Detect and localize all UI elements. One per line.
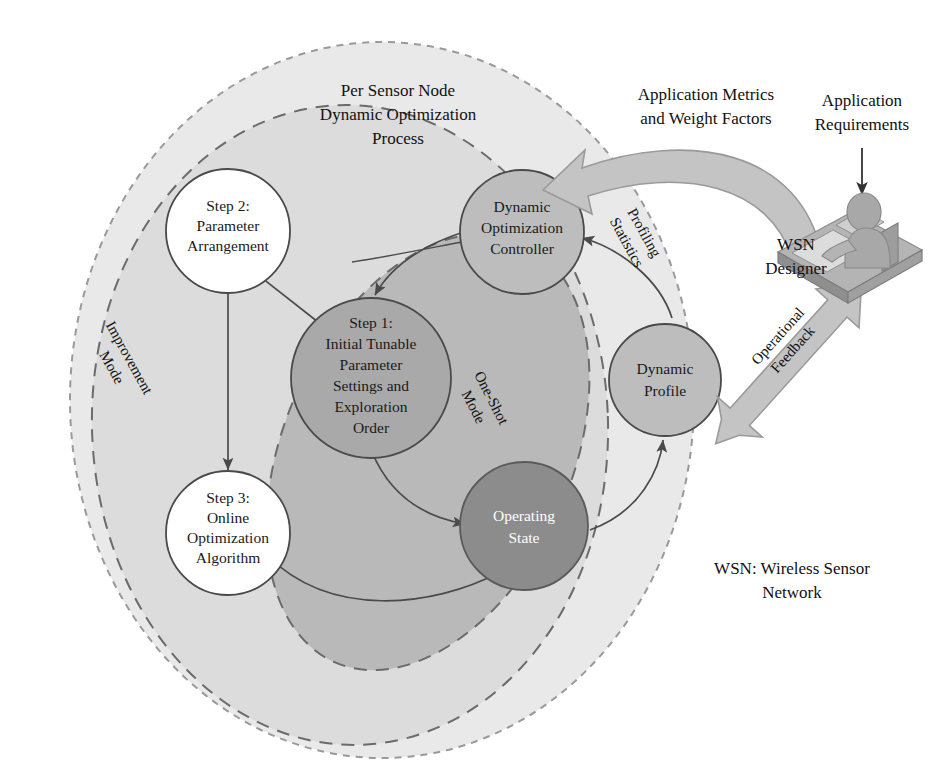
step2-line-2: Parameter (197, 217, 261, 234)
profile-circle[interactable] (609, 324, 721, 436)
node-step3[interactable]: Step 3: Online Optimization Algorithm (166, 471, 290, 595)
label-application-metrics: Application Metrics and Weight Factors (638, 85, 774, 128)
profile-line-2: Profile (644, 382, 686, 399)
node-step1[interactable]: Step 1: Initial Tunable Parameter Settin… (291, 298, 451, 458)
step1-line-2: Initial Tunable (326, 335, 417, 352)
operating-state-circle[interactable] (460, 462, 588, 590)
node-dynamic-profile[interactable]: Dynamic Profile (609, 324, 721, 436)
app-requirements-line-1: Application (822, 91, 903, 110)
step1-line-5: Exploration (334, 398, 407, 415)
step1-line-1: Step 1: (349, 314, 393, 331)
step3-line-2: Online (207, 509, 249, 526)
step3-line-3: Optimization (187, 529, 269, 546)
dynamic-optimization-process-diagram: Per Sensor Node Dynamic Optimization Pro… (0, 0, 933, 775)
title-line-3: Process (372, 129, 424, 148)
profile-line-1: Dynamic (637, 360, 694, 377)
step1-line-6: Order (353, 419, 390, 436)
step2-line-1: Step 2: (206, 197, 250, 214)
step3-line-1: Step 3: (206, 489, 250, 506)
label-application-requirements: Application Requirements (815, 91, 909, 134)
legend-line-2: Network (762, 583, 822, 602)
controller-line-3: Controller (490, 240, 555, 257)
node-step2[interactable]: Step 2: Parameter Arrangement (166, 169, 290, 293)
diagram-canvas: Per Sensor Node Dynamic Optimization Pro… (0, 0, 933, 775)
title-line-1: Per Sensor Node (341, 81, 455, 100)
app-metrics-line-1: Application Metrics (638, 85, 774, 104)
title-line-2: Dynamic Optimization (320, 105, 477, 124)
wsn-designer-line-2: Designer (765, 259, 827, 278)
step3-line-4: Algorithm (196, 549, 261, 566)
person-head-icon (847, 193, 881, 231)
app-metrics-line-2: and Weight Factors (640, 109, 771, 128)
node-operating-state[interactable]: Operating State (460, 462, 588, 590)
operating-state-line-2: State (509, 529, 540, 546)
step1-line-3: Parameter (340, 356, 404, 373)
legend-line-1: WSN: Wireless Sensor (714, 559, 870, 578)
legend-wsn-abbreviation: WSN: Wireless Sensor Network (714, 559, 870, 602)
step2-line-3: Arrangement (187, 237, 269, 254)
wsn-designer-line-1: WSN (777, 235, 815, 254)
controller-line-2: Optimization (481, 219, 563, 236)
app-requirements-line-2: Requirements (815, 115, 909, 134)
operating-state-line-1: Operating (493, 507, 555, 524)
step1-line-4: Settings and (333, 377, 409, 394)
controller-line-1: Dynamic (494, 198, 551, 215)
